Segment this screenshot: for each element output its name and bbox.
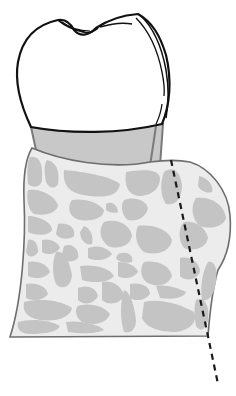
tooth-crown <box>17 14 170 132</box>
tooth-bone-diagram <box>0 0 236 396</box>
alveolar-bone <box>10 148 230 337</box>
